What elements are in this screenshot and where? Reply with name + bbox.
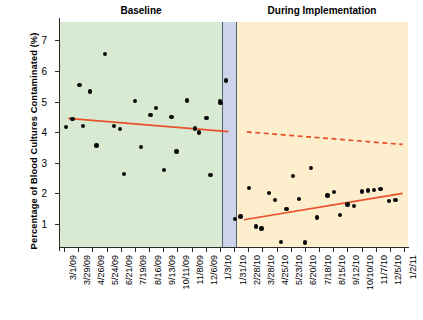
data-point (279, 240, 283, 244)
x-tick (135, 247, 136, 252)
x-tick-label: 11/8/09 (195, 255, 205, 284)
data-point (169, 115, 173, 119)
x-tick-label: 5/24/09 (110, 255, 120, 285)
x-tick-label: 1/3/10 (223, 255, 233, 280)
x-tick (262, 247, 263, 252)
chart-figure: Percentage of Blood Cultures Contaminate… (0, 0, 423, 320)
x-tick-label: 10/10/10 (365, 255, 375, 290)
x-tick-label: 3/28/10 (266, 255, 276, 285)
x-tick (305, 247, 306, 252)
x-tick (376, 247, 377, 252)
counterfactual-projection (247, 132, 403, 145)
x-tick (248, 247, 249, 252)
x-tick (277, 247, 278, 252)
x-tick-label: 3/1/09 (68, 255, 78, 280)
y-tick-label: 5 (41, 96, 47, 107)
data-point (148, 113, 152, 117)
data-point (204, 116, 208, 120)
x-tick (64, 247, 65, 252)
x-tick (333, 247, 334, 252)
trend-lines (60, 22, 408, 247)
x-tick (163, 247, 164, 252)
x-tick (347, 247, 348, 252)
data-point (94, 143, 98, 147)
x-tick (291, 247, 292, 252)
x-tick-label: 1/2/11 (408, 255, 418, 279)
y-axis-title: Percentage of Blood Cultures Contaminate… (29, 21, 39, 261)
data-point (254, 224, 258, 228)
x-tick (78, 247, 79, 252)
data-point (303, 240, 307, 244)
x-tick (404, 247, 405, 252)
x-tick-label: 9/12/10 (351, 255, 361, 285)
x-tick (220, 247, 221, 252)
x-tick-label: 6/20/10 (308, 255, 318, 285)
x-tick-label: 4/25/10 (280, 255, 290, 285)
x-tick (121, 247, 122, 252)
x-tick (390, 247, 391, 252)
data-point (366, 188, 370, 192)
x-tick-label: 10/11/09 (181, 255, 191, 289)
data-point (238, 214, 242, 218)
data-point (259, 226, 263, 230)
data-point (218, 101, 222, 105)
panel-title-implementation: During Implementation (268, 5, 377, 16)
x-tick-label: 12/5/10 (393, 255, 403, 285)
x-tick-label: 12/6/09 (209, 255, 219, 285)
x-tick-label: 9/13/09 (167, 255, 177, 285)
y-tick-label: 7 (41, 35, 47, 46)
x-tick-label: 5/23/10 (294, 255, 304, 285)
x-tick-label: 2/28/10 (252, 255, 262, 285)
implementation-trend (244, 193, 403, 219)
x-tick (107, 247, 108, 252)
x-tick-label: 7/18/10 (323, 255, 333, 285)
x-tick-label: 6/21/09 (124, 255, 134, 285)
data-point (233, 217, 237, 221)
baseline-trend (68, 118, 228, 131)
plot-area: Baseline During Implementation 1234567 3… (60, 22, 408, 247)
data-point (393, 198, 397, 202)
y-tick-label: 4 (41, 127, 47, 138)
y-tick-label: 3 (41, 157, 47, 168)
data-point (174, 149, 178, 153)
x-tick-label: 1/31/10 (238, 255, 248, 285)
x-tick-label: 4/26/09 (96, 255, 106, 285)
x-tick (362, 247, 363, 252)
data-point (378, 187, 382, 191)
data-point (315, 215, 319, 219)
x-tick (177, 247, 178, 252)
x-tick (234, 247, 235, 252)
x-tick-label: 3/29/09 (82, 255, 92, 285)
x-tick-label: 8/16/09 (153, 255, 163, 285)
x-tick-label: 7/19/09 (138, 255, 148, 285)
data-point (162, 168, 166, 172)
data-point (325, 193, 329, 197)
data-point (345, 202, 349, 206)
y-tick-label: 1 (41, 219, 47, 230)
data-point (77, 83, 81, 87)
data-point (185, 98, 189, 102)
x-tick-label: 8/15/10 (337, 255, 347, 285)
x-tick-label: 11/7/10 (379, 255, 389, 284)
x-tick (319, 247, 320, 252)
data-point (70, 117, 74, 121)
panel-title-baseline: Baseline (120, 5, 161, 16)
x-tick (149, 247, 150, 252)
y-tick-label: 2 (41, 188, 47, 199)
x-tick (192, 247, 193, 252)
x-tick (92, 247, 93, 252)
data-point (284, 207, 288, 211)
y-tick-label: 6 (41, 65, 47, 76)
data-point (208, 173, 212, 177)
x-tick (206, 247, 207, 252)
